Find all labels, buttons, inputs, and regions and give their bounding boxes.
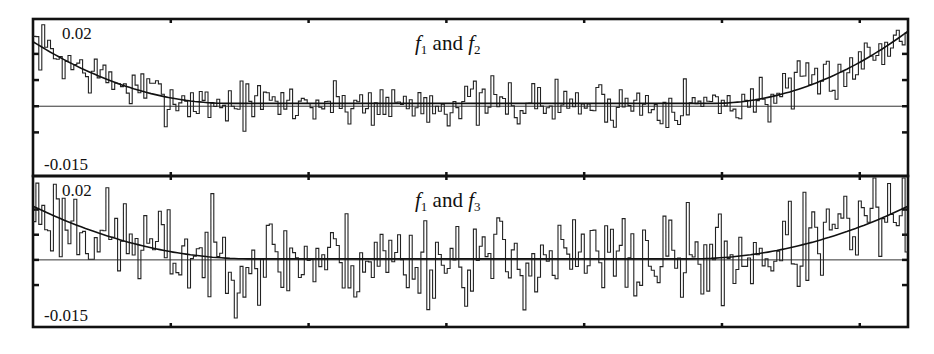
title-and: and bbox=[427, 31, 468, 55]
y-tick-label-bottom: -0.015 bbox=[44, 306, 88, 325]
panel-f1-f3: 0.02 -0.015 f1 and f3 bbox=[33, 176, 908, 327]
panel-title: f1 and f2 bbox=[415, 31, 481, 57]
title-and: and bbox=[427, 188, 468, 212]
y-tick-label-bottom: -0.015 bbox=[44, 155, 88, 174]
title-sub-3: 3 bbox=[474, 199, 481, 214]
x-ticks bbox=[171, 19, 860, 176]
panel-title: f1 and f3 bbox=[415, 188, 481, 214]
panel-f1-f2: 0.02 -0.015 f1 and f2 bbox=[33, 19, 908, 176]
figure: 0.02 -0.015 f1 and f2 0.02 -0.015 f1 and… bbox=[0, 0, 934, 354]
title-sub-2: 2 bbox=[474, 42, 481, 57]
y-tick-label-top: 0.02 bbox=[62, 181, 92, 200]
y-tick-label-top: 0.02 bbox=[62, 24, 92, 43]
